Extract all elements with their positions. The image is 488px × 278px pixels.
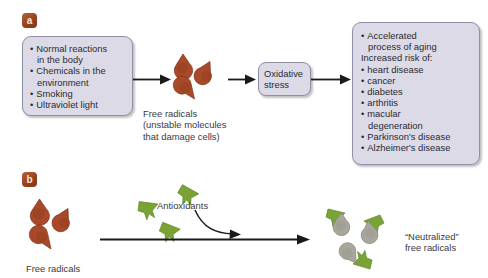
list-item: Parkinson's disease (361, 131, 479, 142)
outcomes-box: Accelerated process of aging Increased r… (352, 22, 480, 165)
causes-list: Normal reactions in the body Chemicals i… (30, 43, 132, 110)
list-item: environment (30, 77, 132, 88)
free-radical-icon (194, 62, 212, 85)
list-item: macular (361, 108, 479, 119)
label-line: free radicals (405, 242, 459, 253)
list-item: Alzheimer's disease (361, 142, 479, 153)
panel-badge-a: a (22, 13, 37, 28)
causes-box: Normal reactions in the body Chemicals i… (22, 36, 133, 116)
list-item: diabetes (361, 86, 479, 97)
free-radical-icon-group-a (172, 53, 232, 103)
neutralized-radical-icon (361, 215, 384, 244)
neutralized-radical-icon (326, 209, 350, 236)
arrow-reaction-b (100, 231, 312, 249)
list-item: in the body (30, 54, 132, 65)
caption-line: Free radicals (143, 108, 226, 119)
arrow-stress-to-outcomes (311, 70, 353, 90)
neutralized-radical-icon (339, 243, 372, 269)
list-item: Ultraviolet light (30, 99, 132, 110)
label-line: stress (264, 79, 310, 90)
panel-badge-b: b (22, 172, 37, 187)
list-item: Smoking (30, 88, 132, 99)
neutralized-radical-icon-group (326, 207, 406, 275)
free-radical-icon (173, 76, 194, 99)
oxidative-stress-label: Oxidative stress (259, 63, 310, 90)
list-item: heart disease (361, 64, 479, 75)
neutralized-radicals-label: “Neutralized” free radicals (405, 231, 459, 254)
free-radical-icon (52, 209, 70, 232)
arrow-causes-to-radicals (133, 70, 173, 90)
free-radical-icon (29, 225, 51, 249)
arrow-radicals-to-stress (228, 70, 258, 90)
list-item: arthritis (361, 97, 479, 108)
free-radical-icon (30, 199, 49, 225)
free-radicals-caption: Free radicals (unstable molecules that d… (143, 108, 226, 142)
list-item: Accelerated (361, 30, 479, 41)
label-line: “Neutralized” (405, 231, 459, 242)
list-item: degeneration (361, 120, 479, 131)
list-item: Increased risk of: (361, 52, 479, 63)
free-radical-icon-group-b (30, 198, 92, 256)
list-item: Chemicals in the (30, 65, 132, 76)
oxidative-stress-box: Oxidative stress (258, 62, 311, 96)
list-item: process of aging (361, 41, 479, 52)
list-item: Normal reactions (30, 43, 132, 54)
list-item: cancer (361, 75, 479, 86)
caption-line: (unstable molecules (143, 119, 226, 130)
caption-line: that damage cells) (143, 131, 226, 142)
outcomes-list: Accelerated process of aging Increased r… (361, 30, 479, 153)
label-line: Oxidative (264, 68, 310, 79)
figure-canvas: a Normal reactions in the body Chemicals… (0, 0, 488, 278)
free-radicals-label-b: Free radicals (26, 263, 80, 274)
free-radical-icon (174, 54, 192, 80)
